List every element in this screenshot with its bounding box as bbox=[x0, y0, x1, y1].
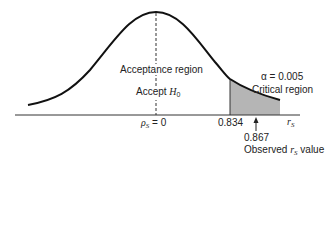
observed-caption: Observed rS value bbox=[244, 144, 324, 159]
accept-sub: 0 bbox=[177, 91, 181, 98]
accept-var: H bbox=[169, 86, 176, 97]
observed-suffix: value bbox=[298, 144, 325, 155]
alpha-label: α = 0.005 bbox=[261, 71, 303, 82]
center-value-label: ρS = 0 bbox=[141, 117, 166, 132]
axis-sub: S bbox=[291, 121, 295, 129]
center-value: = 0 bbox=[149, 117, 166, 128]
acceptance-region-label: Acceptance region bbox=[119, 64, 204, 75]
axis-label: rS bbox=[287, 116, 294, 131]
observed-prefix: Observed bbox=[244, 144, 290, 155]
accept-h0-label: Accept H0 bbox=[135, 86, 182, 100]
accept-prefix: Accept bbox=[136, 86, 169, 97]
critical-value-label: 0.834 bbox=[218, 117, 243, 128]
observed-arrow-head-icon bbox=[254, 117, 259, 123]
critical-region-label: Critical region bbox=[252, 84, 313, 95]
observed-value-label: 0.867 bbox=[244, 132, 269, 143]
